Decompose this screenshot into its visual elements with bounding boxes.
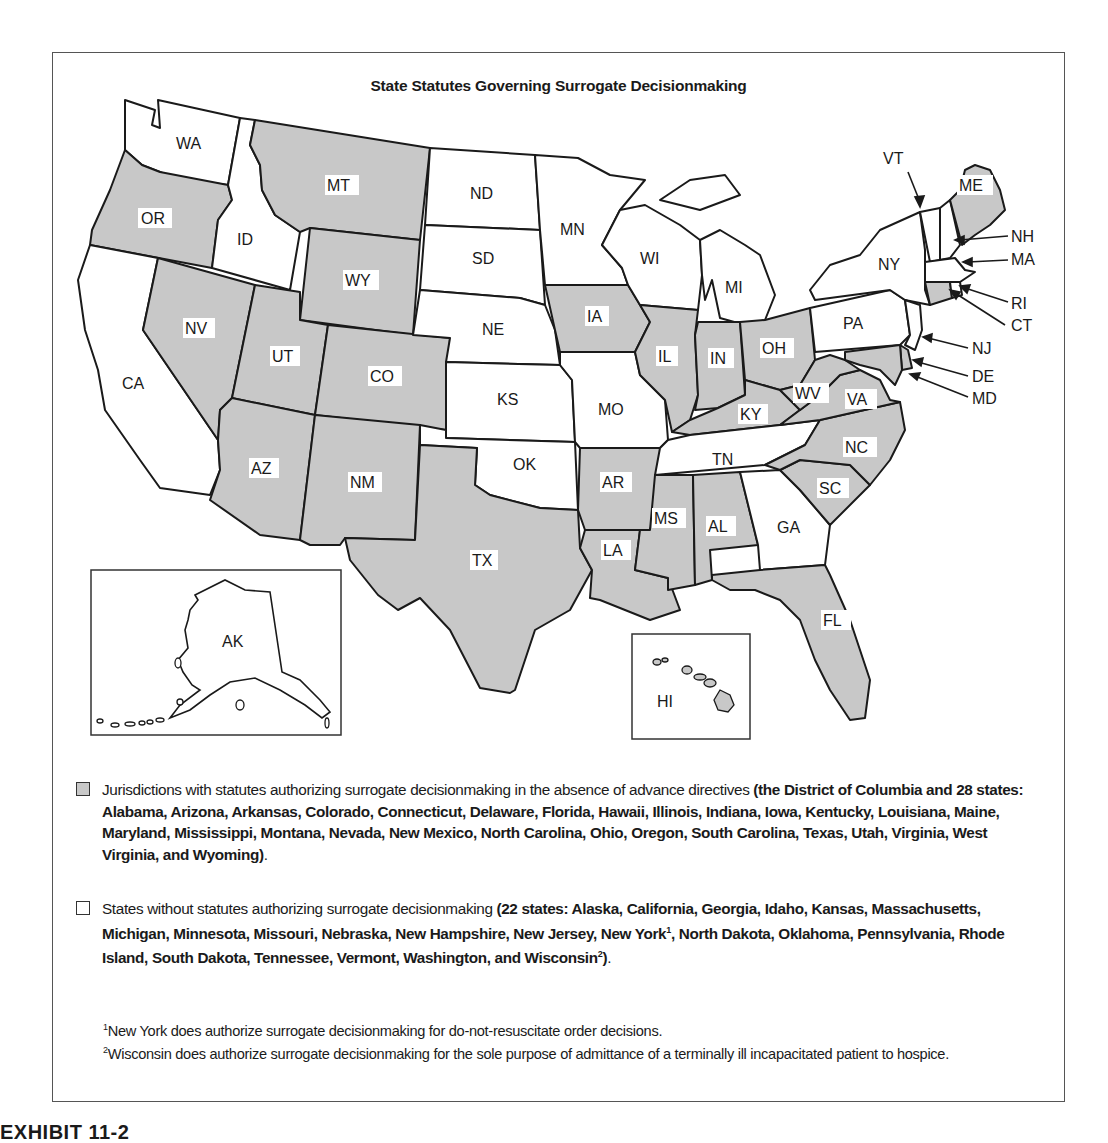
svg-text:MA: MA bbox=[1011, 251, 1035, 268]
legend-shaded-intro: Jurisdictions with statutes authorizing … bbox=[102, 781, 753, 798]
label-IA: IA bbox=[585, 306, 609, 326]
label-ND: ND bbox=[470, 185, 493, 202]
label-MT: MT bbox=[325, 175, 359, 195]
svg-text:DE: DE bbox=[972, 368, 994, 385]
label-MN: MN bbox=[560, 221, 585, 238]
label-CT: CT bbox=[1011, 317, 1033, 334]
svg-text:NC: NC bbox=[845, 439, 868, 456]
svg-text:WY: WY bbox=[345, 272, 371, 289]
label-AK: AK bbox=[222, 633, 244, 650]
svg-text:NJ: NJ bbox=[972, 340, 992, 357]
svg-text:MS: MS bbox=[654, 510, 678, 527]
label-KY: KY bbox=[738, 404, 768, 424]
label-WA: WA bbox=[173, 133, 207, 153]
svg-text:OH: OH bbox=[762, 340, 786, 357]
svg-text:TN: TN bbox=[712, 451, 733, 468]
svg-text:ID: ID bbox=[237, 231, 253, 248]
label-ME: ME bbox=[957, 175, 993, 195]
label-WV: WV bbox=[793, 383, 829, 403]
svg-text:AZ: AZ bbox=[251, 460, 272, 477]
label-MO: MO bbox=[598, 401, 624, 418]
svg-text:OK: OK bbox=[513, 456, 536, 473]
legend-unshaded-intro: States without statutes authorizing surr… bbox=[102, 900, 496, 917]
svg-text:AK: AK bbox=[222, 633, 244, 650]
svg-text:ND: ND bbox=[470, 185, 493, 202]
legend-unshaded: States without statutes authorizing surr… bbox=[76, 898, 1046, 969]
label-NE: NE bbox=[482, 321, 504, 338]
svg-text:TX: TX bbox=[472, 552, 493, 569]
label-MI: MI bbox=[725, 279, 743, 296]
label-WY: WY bbox=[343, 270, 379, 290]
svg-text:MN: MN bbox=[560, 221, 585, 238]
svg-text:CT: CT bbox=[1011, 317, 1033, 334]
svg-text:NY: NY bbox=[878, 256, 901, 273]
svg-text:NM: NM bbox=[350, 474, 375, 491]
svg-text:MI: MI bbox=[725, 279, 743, 296]
svg-text:CO: CO bbox=[370, 368, 394, 385]
label-IN: IN bbox=[708, 348, 734, 368]
label-TX: TX bbox=[470, 550, 498, 570]
label-NH: NH bbox=[1011, 228, 1034, 245]
label-UT: UT bbox=[270, 346, 300, 366]
svg-text:NH: NH bbox=[1011, 228, 1034, 245]
legend-swatch-shaded bbox=[76, 782, 90, 796]
label-MA: MA bbox=[1011, 251, 1035, 268]
svg-text:WI: WI bbox=[640, 250, 660, 267]
label-AZ: AZ bbox=[249, 458, 279, 478]
svg-text:LA: LA bbox=[603, 542, 623, 559]
hawaii-inset-frame bbox=[632, 634, 750, 739]
svg-text:SC: SC bbox=[819, 480, 841, 497]
svg-text:VT: VT bbox=[883, 150, 904, 167]
svg-text:MD: MD bbox=[972, 390, 997, 407]
label-VA: VA bbox=[845, 389, 877, 409]
svg-text:NE: NE bbox=[482, 321, 504, 338]
label-OH: OH bbox=[760, 338, 794, 358]
label-NM: NM bbox=[348, 472, 382, 492]
state-CT[interactable] bbox=[925, 282, 952, 305]
svg-text:VA: VA bbox=[847, 391, 867, 408]
svg-text:SD: SD bbox=[472, 250, 494, 267]
svg-text:WV: WV bbox=[795, 385, 821, 402]
footnotes: 1New York does authorize surrogate decis… bbox=[103, 1018, 1023, 1065]
label-SC: SC bbox=[817, 478, 849, 498]
label-NV: NV bbox=[183, 318, 215, 338]
legend-swatch-unshaded bbox=[76, 901, 90, 915]
label-RI: RI bbox=[1011, 295, 1027, 312]
label-VT: VT bbox=[883, 150, 904, 167]
label-OR: OR bbox=[138, 208, 172, 228]
label-AR: AR bbox=[600, 472, 632, 492]
svg-text:ME: ME bbox=[959, 177, 983, 194]
label-OK: OK bbox=[513, 456, 536, 473]
label-MS: MS bbox=[652, 508, 686, 528]
svg-text:CA: CA bbox=[122, 375, 145, 392]
footnote-2: 2Wisconsin does authorize surrogate deci… bbox=[103, 1041, 1023, 1064]
legend-shaded: Jurisdictions with statutes authorizing … bbox=[76, 779, 1046, 865]
label-FL: FL bbox=[821, 610, 851, 630]
label-CO: CO bbox=[368, 366, 402, 386]
svg-text:RI: RI bbox=[1011, 295, 1027, 312]
svg-text:IA: IA bbox=[587, 308, 602, 325]
label-NY: NY bbox=[878, 256, 901, 273]
label-DE: DE bbox=[972, 368, 994, 385]
state-NY[interactable] bbox=[810, 212, 930, 305]
label-TN: TN bbox=[712, 451, 733, 468]
svg-text:FL: FL bbox=[823, 612, 842, 629]
label-IL: IL bbox=[656, 346, 678, 366]
label-NC: NC bbox=[843, 437, 877, 457]
svg-text:MO: MO bbox=[598, 401, 624, 418]
svg-text:AL: AL bbox=[708, 518, 728, 535]
label-SD: SD bbox=[472, 250, 494, 267]
label-KS: KS bbox=[497, 391, 518, 408]
label-CA: CA bbox=[122, 375, 145, 392]
label-LA: LA bbox=[601, 540, 631, 560]
svg-text:OR: OR bbox=[141, 210, 165, 227]
footnote-1: 1New York does authorize surrogate decis… bbox=[103, 1018, 1023, 1041]
svg-text:UT: UT bbox=[272, 348, 294, 365]
label-NJ: NJ bbox=[972, 340, 992, 357]
svg-text:HI: HI bbox=[657, 693, 673, 710]
svg-text:PA: PA bbox=[843, 315, 863, 332]
svg-text:IL: IL bbox=[658, 348, 671, 365]
svg-text:IN: IN bbox=[710, 350, 726, 367]
label-PA: PA bbox=[843, 315, 863, 332]
svg-text:MT: MT bbox=[327, 177, 350, 194]
